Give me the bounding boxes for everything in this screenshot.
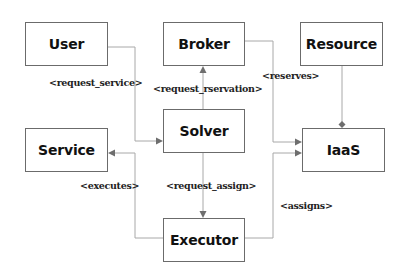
node-resource[interactable]: Resource	[300, 22, 383, 66]
node-solver[interactable]: Solver	[163, 109, 245, 153]
connector-resource-iaas	[339, 66, 346, 128]
node-label: Executor	[170, 232, 238, 248]
node-label: User	[49, 36, 84, 52]
node-service[interactable]: Service	[25, 128, 108, 172]
edge-label-assigns: <assigns>	[280, 200, 333, 211]
node-label: IaaS	[327, 142, 360, 158]
node-iaas[interactable]: IaaS	[302, 128, 385, 172]
node-label: Resource	[306, 36, 377, 52]
arrowhead-icon	[295, 150, 302, 157]
composition-diamond-icon	[339, 121, 346, 128]
edge-label-request-assign: <request_assign>	[166, 180, 256, 191]
node-label: Broker	[178, 36, 229, 52]
node-label: Service	[38, 142, 95, 158]
connector-executor-iaas	[245, 150, 302, 239]
node-executor[interactable]: Executor	[163, 218, 245, 262]
edge-label-request-service: <request_service>	[49, 77, 142, 88]
architecture-diagram: User Broker Resource Service Solver IaaS…	[0, 0, 400, 265]
arrowhead-icon	[295, 139, 302, 146]
edge-label-reserves: <reserves>	[262, 70, 319, 81]
arrowhead-icon	[156, 138, 163, 145]
arrowhead-icon	[108, 150, 115, 157]
connector-user-solver	[108, 47, 163, 145]
node-broker[interactable]: Broker	[163, 22, 245, 66]
edge-label-request-reservation: <request_rservation>	[153, 83, 262, 94]
connector-executor-service	[108, 150, 163, 239]
arrowhead-icon	[200, 211, 207, 218]
edge-label-executes: <executes>	[80, 180, 139, 191]
node-label: Solver	[180, 123, 229, 139]
arrowhead-icon	[200, 66, 207, 73]
node-user[interactable]: User	[25, 22, 108, 66]
